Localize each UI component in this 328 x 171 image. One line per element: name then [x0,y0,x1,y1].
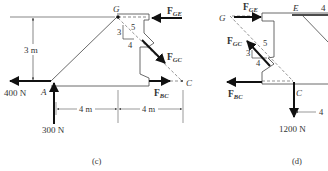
diagram-d: G E 4 C 3 4 5 FGE FGC FBC 1200 N [219,2,328,166]
member-AG [51,17,117,81]
point-G-label: G [113,4,120,14]
diagram-c: 3 m 3 4 5 G A C 400 N 300 N FGE FGC [4,4,193,166]
top-right-cropped-label: 4 [321,3,326,13]
member-GC-dashed-d [230,16,293,81]
span2-dimension-label: 4 m [142,104,155,114]
force-1200N-label: 1200 N [279,124,306,134]
slope-hyp-label-d: 5 [263,38,267,48]
slope-rise-label-d: 3 [246,48,250,58]
point-E-label: E [292,3,299,13]
force-FBC-label-d: FBC [228,89,243,100]
joint-C [181,80,183,82]
slope-hyp-label: 5 [131,22,135,32]
truss-section-diagrams: 3 m 3 4 5 G A C 400 N 300 N FGE FGC [0,0,328,171]
point-C-label: C [186,78,193,88]
joint-G [116,15,120,19]
span-dimension-label-d: 4 [319,107,324,117]
caption-d: (d) [292,156,302,166]
point-C-label-d: C [296,88,303,98]
point-G-label-d: G [219,13,226,23]
member-E-diagonal [302,15,328,42]
force-FBC-label: FBC [154,88,169,99]
force-FGC-label-d: FGC [227,36,243,47]
force-FGE-label-d: FGE [243,2,259,13]
slope-run-label-d: 4 [256,58,261,68]
span1-dimension-label: 4 m [79,104,92,114]
force-FGE-label: FGE [167,6,183,17]
slope-rise-label: 3 [117,27,121,37]
caption-c: (c) [92,156,102,166]
point-A-label: A [40,87,47,97]
section-cut-outline [117,14,154,86]
slope-run-label: 4 [128,40,133,50]
force-FGC-label: FGC [167,52,183,63]
force-300N-label: 300 N [42,125,65,135]
height-dimension-label: 3 m [24,45,38,55]
force-400N-label: 400 N [4,88,27,98]
